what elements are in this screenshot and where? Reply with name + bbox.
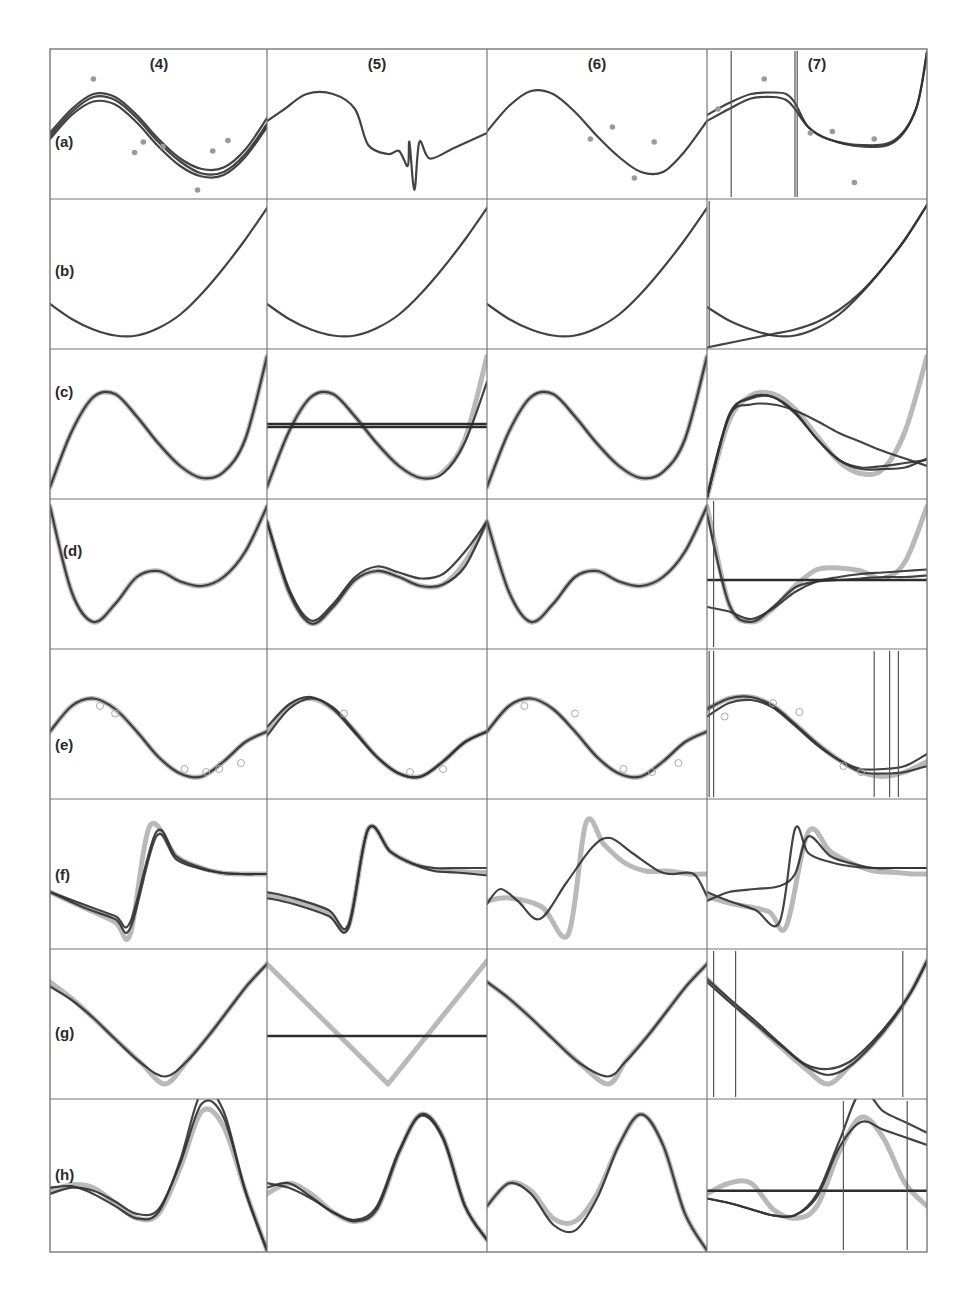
data-point-2: [610, 124, 616, 130]
data-point-7: [225, 138, 231, 144]
row-label-b: (b): [55, 262, 74, 279]
fitted-curve-1: [707, 205, 927, 336]
fitted-curve-2: [50, 834, 267, 933]
row-labels: (a) (b) (c) (d) (e) (f) (g) (h): [55, 133, 82, 1183]
fitted-curve-1: [487, 698, 707, 777]
panel-f-6: [487, 819, 707, 937]
panel-d-7: [707, 501, 927, 647]
panel-d-4: [50, 507, 267, 623]
fitted-curve-3: [707, 396, 927, 498]
data-point-1: [91, 76, 97, 82]
data-point-1: [588, 136, 594, 142]
sample-point-3: [440, 766, 447, 773]
true-function-curve: [267, 698, 487, 777]
data-point-4: [830, 129, 836, 135]
true-function-curve: [487, 819, 707, 937]
fitted-curve-1: [267, 208, 487, 336]
panel-f-5: [267, 826, 487, 933]
true-function-curve: [50, 823, 267, 939]
panel-g-5: [267, 961, 487, 1084]
sample-point-3: [620, 766, 627, 773]
fitted-curve-2: [707, 961, 927, 1069]
row-label-c: (c): [55, 383, 73, 400]
panel-e-4: [50, 698, 267, 777]
fitted-curve-2: [707, 700, 927, 770]
true-function-curve: [487, 507, 707, 623]
sample-point-2: [572, 710, 579, 717]
true-function-curve: [707, 357, 927, 498]
true-function-curve: [707, 1117, 927, 1218]
fitted-curve-1: [50, 964, 267, 1077]
data-point-1: [715, 106, 721, 112]
true-function-curve: [707, 507, 927, 623]
sample-point-3: [796, 709, 803, 716]
sample-point-1: [521, 703, 528, 710]
panel-b-5: [267, 208, 487, 336]
column-headers: (4) (5) (6) (7): [150, 55, 826, 72]
figure-grid: (4) (5) (6) (7) (a) (b) (c) (d) (e) (f) …: [0, 0, 972, 1292]
true-function-curve: [707, 829, 927, 931]
panel-c-5: [267, 357, 487, 488]
true-function-curve: [50, 964, 267, 1084]
true-function-curve: [707, 961, 927, 1084]
data-point-3: [651, 139, 657, 145]
row-label-h: (h): [55, 1166, 74, 1183]
true-function-curve: [50, 1109, 267, 1251]
fitted-curve-1: [267, 826, 487, 929]
column-header-4: (4): [150, 55, 168, 72]
fitted-curve-1: [50, 357, 267, 488]
true-function-curve: [50, 698, 267, 777]
column-header-5: (5): [368, 55, 386, 72]
panel-e-7: [707, 651, 927, 797]
fitted-curve-1: [50, 208, 267, 336]
panel-f-4: [50, 823, 267, 939]
true-function-curve: [50, 357, 267, 488]
sample-point-3: [181, 766, 188, 773]
row-label-e: (e): [55, 736, 73, 753]
true-function-curve: [267, 357, 487, 488]
fitted-curve-1: [487, 208, 707, 336]
data-point-5: [195, 187, 201, 193]
true-function-curve: [267, 961, 487, 1084]
true-function-curve: [267, 826, 487, 931]
data-point-2: [132, 150, 138, 156]
column-header-6: (6): [588, 55, 606, 72]
panel-d-5: [267, 522, 487, 624]
fitted-curve-2: [50, 93, 267, 170]
panel-e-5: [267, 697, 487, 777]
sample-point-5: [675, 760, 682, 767]
panel-a-4: [50, 76, 267, 193]
fitted-curve-1: [50, 830, 267, 928]
fitted-curve-1: [267, 92, 487, 190]
panel-a-5: [267, 92, 487, 190]
sample-point-6: [237, 760, 244, 767]
panel-f-7: [707, 826, 927, 930]
data-point-6: [852, 180, 858, 186]
true-function-curve: [487, 964, 707, 1084]
fitted-curve-1: [487, 357, 707, 488]
fitted-curve-1: [487, 90, 707, 174]
panel-c-7: [707, 357, 927, 498]
data-point-6: [210, 148, 216, 154]
panel-h-7: [707, 1090, 927, 1250]
fitted-curve-1: [487, 838, 707, 920]
panel-c-4: [50, 357, 267, 488]
data-point-3: [808, 130, 814, 136]
data-point-3: [141, 139, 147, 145]
fitted-curve-1: [267, 698, 487, 777]
fitted-curve-1: [707, 696, 927, 773]
true-function-curve: [267, 1114, 487, 1240]
panel-h-6: [487, 1114, 707, 1250]
sample-point-1: [96, 703, 103, 710]
panel-b-4: [50, 208, 267, 336]
row-label-a: (a): [55, 133, 73, 150]
panels-layer: [50, 51, 927, 1251]
fitted-curve-1: [50, 698, 267, 777]
data-point-2: [761, 76, 767, 82]
panel-c-6: [487, 357, 707, 488]
fitted-curve-1: [50, 1100, 267, 1250]
panel-g-7: [707, 951, 927, 1097]
row-label-d: (d): [63, 542, 82, 559]
data-point-5: [871, 136, 877, 142]
true-function-curve: [50, 507, 267, 623]
